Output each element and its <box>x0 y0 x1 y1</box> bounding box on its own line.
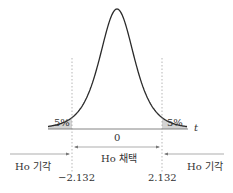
accept-region-label: Ho 채택 <box>101 150 137 165</box>
x-axis-label: t <box>194 122 198 133</box>
center-label: 0 <box>114 132 120 143</box>
left-reject-label: Ho 기각 <box>15 158 51 173</box>
left-critical-value: −2.132 <box>58 172 95 183</box>
accept-arrow-left-head <box>74 146 78 149</box>
right-critical-value: 2.132 <box>148 172 177 183</box>
left-reject-arrow-head <box>66 153 70 156</box>
left-tail-label: 5% <box>54 117 70 128</box>
right-reject-label: Ho 기각 <box>187 158 223 173</box>
right-reject-arrow-head <box>164 153 168 156</box>
right-tail-label: 5% <box>167 117 183 128</box>
density-curve <box>48 9 187 127</box>
accept-arrow-right-head <box>156 146 160 149</box>
